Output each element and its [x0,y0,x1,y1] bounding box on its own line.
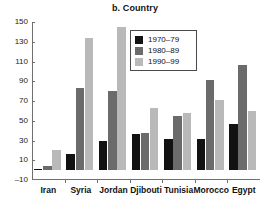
bar [238,65,247,170]
y-axis-tick-mark [32,141,35,142]
x-axis-tick-mark [227,180,228,183]
x-axis-tick-mark [65,180,66,183]
bar-chart: b. Country 1501301109070503010–10 IranSy… [0,0,270,211]
y-axis-tick-label: 130 [2,38,28,46]
legend-label: 1990–99 [148,58,179,66]
bar [34,169,43,170]
bar [215,100,224,170]
y-axis-tick-mark [32,121,35,122]
bar [164,139,173,171]
x-axis-category-label-syria: Syria [70,186,91,195]
legend-label: 1980–89 [148,47,179,55]
bar [173,116,182,170]
y-axis-tick-mark [32,22,35,23]
x-axis-tick-mark [162,180,163,183]
y-axis-tick-mark [32,101,35,102]
legend-item: 1970–79 [135,34,192,45]
bar [206,80,215,170]
chart-legend: 1970–791980–891990–99 [130,30,197,71]
bar [197,139,206,171]
x-axis-category-label-egypt: Egypt [232,186,256,195]
y-axis-tick-mark [32,160,35,161]
y-axis-tick-label: 110 [2,58,28,66]
x-axis-category-label-iran: Iran [40,186,56,195]
x-axis-tick-mark [97,180,98,183]
bar [117,27,126,170]
legend-item: 1990–99 [135,56,192,67]
x-axis-category-label-djibouti: Djibouti [130,186,162,195]
x-axis-tick-mark [195,180,196,183]
chart-title: b. Country [0,3,270,13]
y-axis-tick-label: 90 [2,77,28,85]
y-axis-tick-mark [32,62,35,63]
y-axis-tick-label: 50 [2,117,28,125]
y-axis-tick-label: –10 [2,176,28,184]
bar [66,154,75,170]
bar [99,141,108,171]
bar [132,134,141,171]
x-axis-category-label-jordan: Jordan [99,186,127,195]
legend-swatch-icon [135,47,143,55]
bar [183,113,192,170]
x-axis-line [32,179,260,180]
y-axis-tick-mark [32,81,35,82]
bar [52,150,61,170]
legend-item: 1980–89 [135,45,192,56]
y-axis-tick-label: 70 [2,97,28,105]
bar [85,38,94,170]
legend-swatch-icon [135,36,143,44]
y-axis-tick-label: 10 [2,156,28,164]
bar [141,133,150,171]
bar [108,91,117,170]
bar [150,108,159,170]
bar [76,88,85,170]
y-axis-tick-label: 30 [2,137,28,145]
y-axis-tick-mark [32,42,35,43]
x-axis-category-label-tunisia: Tunisia [164,186,193,195]
x-axis-tick-mark [130,180,131,183]
bar [248,111,257,170]
y-axis-tick-label: 150 [2,18,28,26]
x-axis-category-label-morocco: Morocco [193,186,228,195]
legend-swatch-icon [135,58,143,66]
bar [229,124,238,170]
legend-label: 1970–79 [148,36,179,44]
bar [43,166,52,170]
